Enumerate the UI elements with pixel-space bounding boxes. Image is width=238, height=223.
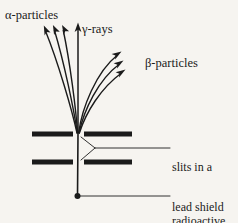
beta-particles-label: β-particles	[145, 56, 198, 70]
slits-leader-fork-lower	[81, 148, 95, 160]
radioactivity-separation-diagram: α-particles γ-rays β-particles slits in …	[0, 0, 238, 223]
slits-label-line-1: slits in a	[172, 161, 224, 174]
gamma-rays-label: γ-rays	[82, 22, 113, 36]
alpha-arrowhead-3	[62, 25, 69, 35]
alpha-particles-label: α-particles	[5, 8, 58, 22]
radioactive-source-dot	[75, 193, 81, 199]
source-stem-line	[78, 134, 79, 196]
source-label-line-1: radioactive	[172, 215, 225, 223]
beta-beam-2	[79, 64, 120, 133]
slits-leader-fork-upper	[81, 137, 95, 148]
alpha-arrowhead-2	[53, 25, 60, 35]
radioactive-source-label: radioactive source	[172, 188, 225, 223]
